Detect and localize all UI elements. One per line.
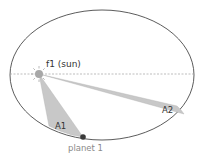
planet-dot <box>80 134 86 140</box>
area2-label: A2 <box>162 105 173 115</box>
kepler-diagram: f1 (sun) A1 A2 planet 1 <box>0 0 199 162</box>
planet-label: planet 1 <box>68 143 103 153</box>
focus-label: f1 (sun) <box>46 59 81 69</box>
area1-label: A1 <box>55 121 66 131</box>
